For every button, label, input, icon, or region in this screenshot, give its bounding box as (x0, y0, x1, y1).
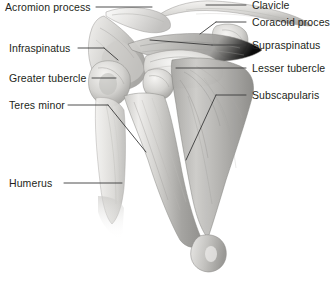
label-acromion-process: Acromion process (5, 2, 91, 13)
label-coracoid-process: Coracoid proces (252, 17, 330, 28)
anatomy-figure: Acromion process Infraspinatus Greater t… (0, 0, 334, 291)
label-greater-tubercle: Greater tubercle (9, 73, 86, 84)
medial-soft-tissue (95, 98, 125, 241)
label-clavicle: Clavicle (252, 0, 290, 11)
label-lesser-tubercle: Lesser tubercle (252, 63, 325, 74)
label-humerus: Humerus (9, 178, 52, 189)
label-teres-minor: Teres minor (9, 100, 65, 111)
label-supraspinatus: Supraspinatus (252, 40, 320, 51)
distal-humerus (191, 235, 227, 272)
label-subscapularis: Subscapularis (252, 90, 319, 101)
label-infraspinatus: Infraspinatus (9, 43, 70, 54)
